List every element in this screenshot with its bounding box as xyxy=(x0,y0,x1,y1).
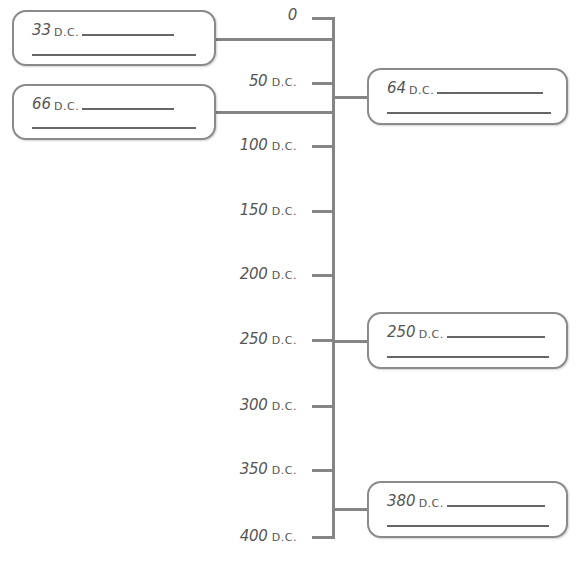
answer-line-1[interactable] xyxy=(447,336,545,338)
tick-label-0: 0 xyxy=(288,6,297,24)
answer-line-1[interactable] xyxy=(437,92,543,94)
tick-label-150: 150 D.C. xyxy=(240,201,297,219)
tick-350 xyxy=(312,469,334,472)
answer-line-2[interactable] xyxy=(32,54,196,56)
connector-250 xyxy=(334,340,368,343)
connector-66 xyxy=(215,111,333,114)
tick-label-50: 50 D.C. xyxy=(249,72,297,90)
event-box-380: 380D.C. xyxy=(367,481,568,538)
tick-0 xyxy=(312,17,334,20)
answer-line-2[interactable] xyxy=(32,127,196,129)
tick-300 xyxy=(312,405,334,408)
tick-200 xyxy=(312,274,334,277)
tick-label-400: 400 D.C. xyxy=(240,527,297,545)
answer-line-1[interactable] xyxy=(82,108,174,110)
event-box-66: 66D.C. xyxy=(12,84,216,140)
answer-line-2[interactable] xyxy=(387,525,549,527)
connector-380 xyxy=(334,508,368,511)
tick-150 xyxy=(312,210,334,213)
tick-label-300: 300 D.C. xyxy=(240,396,297,414)
answer-line-2[interactable] xyxy=(387,112,551,114)
tick-50 xyxy=(312,82,334,85)
answer-line-2[interactable] xyxy=(387,356,549,358)
tick-400 xyxy=(312,536,334,539)
tick-label-350: 350 D.C. xyxy=(240,460,297,478)
event-box-33: 33D.C. xyxy=(12,10,216,66)
tick-label-250: 250 D.C. xyxy=(240,330,297,348)
tick-100 xyxy=(312,145,334,148)
event-box-250: 250D.C. xyxy=(367,312,568,369)
answer-line-1[interactable] xyxy=(447,505,545,507)
event-box-64: 64D.C. xyxy=(367,68,568,125)
tick-label-200: 200 D.C. xyxy=(240,265,297,283)
connector-64 xyxy=(334,96,368,99)
tick-label-100: 100 D.C. xyxy=(240,136,297,154)
connector-33 xyxy=(215,38,333,41)
tick-250 xyxy=(312,339,334,342)
answer-line-1[interactable] xyxy=(82,34,174,36)
